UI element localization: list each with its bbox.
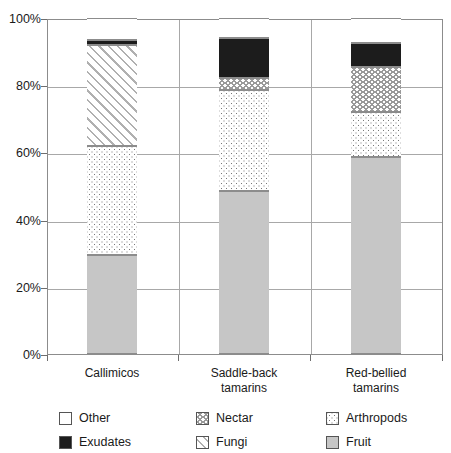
x-axis-label-redbellied-line2: tamarins — [316, 381, 436, 396]
legend-swatch-arthropods-icon — [326, 412, 339, 425]
segment-callimicos-arthropods[interactable] — [87, 146, 137, 255]
legend-label-arthropods: Arthropods — [346, 411, 407, 425]
segment-callimicos-exudates[interactable] — [87, 40, 137, 45]
plot-area — [47, 19, 443, 355]
legend-label-fruit: Fruit — [346, 435, 371, 449]
x-axis-label-saddle-back-tamarins: Saddle-back tamarins — [184, 366, 304, 395]
legend-swatch-fungi-icon — [196, 436, 209, 449]
legend-swatch-exudates-icon — [59, 436, 72, 449]
legend-item-fungi[interactable]: Fungi — [196, 435, 247, 449]
x-axis-label-redbellied-line1: Red-bellied — [316, 366, 436, 381]
segment-saddleback-fruit[interactable] — [219, 191, 269, 354]
x-axis-label-callimicos: Callimicos — [52, 366, 172, 381]
x-tick-mark-right — [442, 355, 443, 361]
legend-swatch-nectar-icon — [196, 412, 209, 425]
x-axis-label-callimicos-line1: Callimicos — [52, 366, 172, 381]
x-axis-label-saddleback-line2: tamarins — [184, 381, 304, 396]
x-tick-mark-2 — [310, 355, 311, 361]
segment-saddleback-arthropods[interactable] — [219, 90, 269, 191]
legend-swatch-fruit-icon — [326, 436, 339, 449]
legend-item-arthropods[interactable]: Arthropods — [326, 411, 407, 425]
legend-label-nectar: Nectar — [216, 411, 253, 425]
x-tick-mark-1 — [178, 355, 179, 361]
legend-item-other[interactable]: Other — [59, 411, 110, 425]
segment-callimicos-other[interactable] — [87, 18, 137, 40]
segment-saddleback-exudates[interactable] — [219, 38, 269, 78]
vgridline-2 — [311, 20, 312, 354]
segment-redbellied-arthropods[interactable] — [351, 112, 401, 157]
segment-saddleback-nectar[interactable] — [219, 78, 269, 90]
legend-swatch-other-icon — [59, 412, 72, 425]
stacked-bar-chart: 0% 20% 40% 60% 80% 100% — [0, 0, 451, 453]
segment-redbellied-fruit[interactable] — [351, 157, 401, 354]
segment-callimicos-fungi[interactable] — [87, 45, 137, 146]
segment-callimicos-fruit[interactable] — [87, 255, 137, 354]
x-axis-label-red-bellied-tamarins: Red-bellied tamarins — [316, 366, 436, 395]
x-tick-mark-left — [47, 355, 48, 361]
chart-legend: Other Exudates Nectar Fungi Arthropods F… — [0, 404, 451, 453]
legend-label-exudates: Exudates — [79, 435, 131, 449]
legend-label-other: Other — [79, 411, 110, 425]
segment-saddleback-other[interactable] — [219, 18, 269, 38]
x-axis-label-saddleback-line1: Saddle-back — [184, 366, 304, 381]
segment-redbellied-other[interactable] — [351, 18, 401, 43]
legend-item-fruit[interactable]: Fruit — [326, 435, 371, 449]
segment-redbellied-nectar[interactable] — [351, 67, 401, 112]
segment-redbellied-exudates[interactable] — [351, 43, 401, 67]
legend-item-nectar[interactable]: Nectar — [196, 411, 253, 425]
legend-item-exudates[interactable]: Exudates — [59, 435, 131, 449]
y-axis-ticks — [0, 19, 47, 355]
legend-label-fungi: Fungi — [216, 435, 247, 449]
vgridline-1 — [179, 20, 180, 354]
